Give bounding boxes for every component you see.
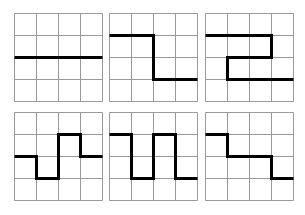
grid-panel-4 [14, 112, 102, 200]
grid-svg [14, 13, 102, 101]
grid-panel-3 [205, 13, 293, 101]
grid-svg [205, 112, 293, 200]
grid-panel-6 [205, 112, 293, 200]
grid-svg [14, 112, 102, 200]
grid-panel-5 [109, 112, 197, 200]
path-line [15, 135, 103, 179]
grid-panel-1 [14, 13, 102, 101]
grid-svg [205, 13, 293, 101]
grid-svg [109, 13, 197, 101]
grid-panel-2 [109, 13, 197, 101]
grid-svg [109, 112, 197, 200]
